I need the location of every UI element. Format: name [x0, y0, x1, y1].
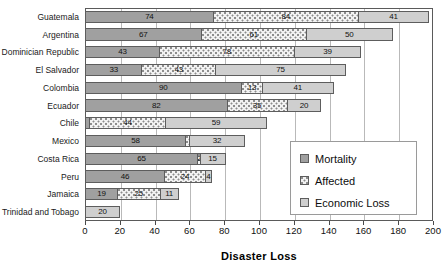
- y-axis-label: Chile: [60, 115, 79, 133]
- legend-label: Mortality: [315, 153, 357, 165]
- bar-segment-value: 74: [145, 13, 154, 21]
- bar-segment-value: 41: [389, 13, 398, 21]
- bar-segment-affected[interactable]: 35: [227, 99, 288, 111]
- bar-segment-mortality[interactable]: 82: [85, 99, 228, 111]
- bar-segment-mortality[interactable]: 90: [85, 82, 242, 94]
- bar-segment-mortality[interactable]: 43: [85, 46, 160, 58]
- x-tick-label: 80: [219, 225, 230, 236]
- y-axis-label: Trinidad and Tobago: [2, 203, 79, 221]
- bar-segment-economic-loss[interactable]: 11: [160, 188, 179, 200]
- bar-row: 823520: [85, 97, 433, 115]
- bar-segment-economic-loss[interactable]: 75: [215, 64, 346, 76]
- bar-segment-affected[interactable]: 25: [117, 188, 161, 200]
- bar-segment-mortality[interactable]: 65: [85, 153, 198, 165]
- x-tick-label: 200: [425, 225, 441, 236]
- x-tick-label: 160: [355, 225, 371, 236]
- stacked-bar[interactable]: 46244: [85, 170, 214, 182]
- x-tick-label: 140: [321, 225, 337, 236]
- bar-segment-value: 59: [212, 119, 221, 127]
- bar-segment-mortality[interactable]: 58: [85, 135, 186, 147]
- bar-segment-value: 39: [323, 48, 332, 56]
- bar-segment-value: 20: [98, 208, 107, 216]
- bar-segment-affected[interactable]: 44: [89, 117, 166, 129]
- bar-segment-affected[interactable]: 43: [141, 64, 216, 76]
- x-tick-label: 20: [115, 225, 126, 236]
- bar-segment-mortality[interactable]: 46: [85, 170, 165, 182]
- bar-segment-value: 75: [276, 66, 285, 74]
- chart-legend: MortalityAffectedEconomic Loss: [290, 141, 417, 215]
- bar-segment-value: 19: [97, 190, 106, 198]
- stacked-bar[interactable]: 748441: [85, 11, 431, 23]
- stacked-bar[interactable]: 823520: [85, 99, 323, 111]
- x-tick-label: 120: [286, 225, 302, 236]
- bar-segment-affected[interactable]: 13: [241, 82, 264, 94]
- legend-item[interactable]: Economic Loss: [300, 192, 416, 213]
- bar-segment-value: 32: [213, 137, 222, 145]
- bar-segment-mortality[interactable]: 33: [85, 64, 142, 76]
- bar-segment-economic-loss[interactable]: 50: [306, 28, 393, 40]
- stacked-bar[interactable]: 4459: [85, 117, 269, 129]
- bar-segment-value: 33: [109, 66, 118, 74]
- bar-segment-value: 67: [139, 31, 148, 39]
- bar-segment-mortality[interactable]: 19: [85, 188, 118, 200]
- x-tick-label: 60: [184, 225, 195, 236]
- bar-segment-value: 41: [294, 84, 303, 92]
- y-axis-label: Dominician Republic: [2, 44, 79, 62]
- bar-segment-value: 35: [253, 102, 262, 110]
- stacked-bar[interactable]: 437839: [85, 46, 363, 58]
- legend-item[interactable]: Mortality: [300, 148, 416, 169]
- bar-segment-value: 43: [118, 48, 127, 56]
- y-axis-label: Argentina: [43, 26, 79, 44]
- stacked-bar[interactable]: 676150: [85, 28, 395, 40]
- y-axis-label: Jamaica: [47, 186, 79, 204]
- bar-segment-economic-loss[interactable]: 41: [358, 11, 429, 23]
- bar-segment-value: 65: [137, 155, 146, 163]
- bar-segment-value: 50: [345, 31, 354, 39]
- bar-segment-affected[interactable]: 84: [213, 11, 359, 23]
- y-axis-label: Colombia: [43, 79, 79, 97]
- bar-segment-affected[interactable]: 24: [164, 170, 206, 182]
- x-tick-label: 0: [82, 225, 87, 236]
- disaster-loss-chart: GuatemalaArgentinaDominician RepublicEl …: [0, 0, 448, 280]
- bar-segment-value: 78: [222, 48, 231, 56]
- bar-segment-economic-loss[interactable]: 15: [200, 153, 226, 165]
- bar-segment-value: 25: [135, 190, 144, 198]
- bar-segment-affected[interactable]: 78: [159, 46, 295, 58]
- stacked-bar[interactable]: 20: [85, 206, 120, 218]
- bar-row: 437839: [85, 44, 433, 62]
- bar-segment-value: 46: [121, 173, 130, 181]
- stacked-bar[interactable]: 901341: [85, 82, 336, 94]
- bar-segment-economic-loss[interactable]: 4: [205, 170, 212, 182]
- bar-segment-value: 44: [123, 119, 132, 127]
- stacked-bar[interactable]: 192511: [85, 188, 181, 200]
- bar-segment-value: 90: [159, 84, 168, 92]
- y-axis-label: Ecuador: [47, 97, 79, 115]
- bar-segment-value: 82: [152, 102, 161, 110]
- bar-segment-value: 20: [300, 102, 309, 110]
- y-axis-category-labels: GuatemalaArgentinaDominician RepublicEl …: [0, 8, 82, 221]
- legend-item[interactable]: Affected: [300, 170, 416, 191]
- bar-segment-economic-loss[interactable]: 41: [262, 82, 333, 94]
- bar-segment-value: 11: [165, 190, 173, 198]
- bar-row: 4459: [85, 115, 433, 133]
- x-axis-ticks: 020406080100120140160180200: [85, 221, 433, 237]
- bar-segment-economic-loss[interactable]: 32: [189, 135, 245, 147]
- bar-segment-value: 13: [248, 84, 257, 92]
- y-axis-label: Costa Rica: [37, 150, 79, 168]
- legend-label: Economic Loss: [315, 197, 390, 209]
- bar-segment-economic-loss[interactable]: 39: [294, 46, 362, 58]
- bar-segment-economic-loss[interactable]: 20: [287, 99, 322, 111]
- x-tick-label: 40: [149, 225, 160, 236]
- x-tick-label: 180: [390, 225, 406, 236]
- bar-segment-affected[interactable]: 61: [201, 28, 307, 40]
- bar-segment-mortality[interactable]: 67: [85, 28, 202, 40]
- y-axis-label: Mexico: [52, 132, 79, 150]
- bar-row: 334375: [85, 61, 433, 79]
- stacked-bar[interactable]: 5832: [85, 135, 247, 147]
- y-axis-label: Peru: [61, 168, 79, 186]
- bar-segment-mortality[interactable]: 74: [85, 11, 214, 23]
- stacked-bar[interactable]: 334375: [85, 64, 348, 76]
- bar-segment-economic-loss[interactable]: 59: [165, 117, 268, 129]
- bar-segment-economic-loss[interactable]: 20: [85, 206, 120, 218]
- stacked-bar[interactable]: 65215: [85, 153, 228, 165]
